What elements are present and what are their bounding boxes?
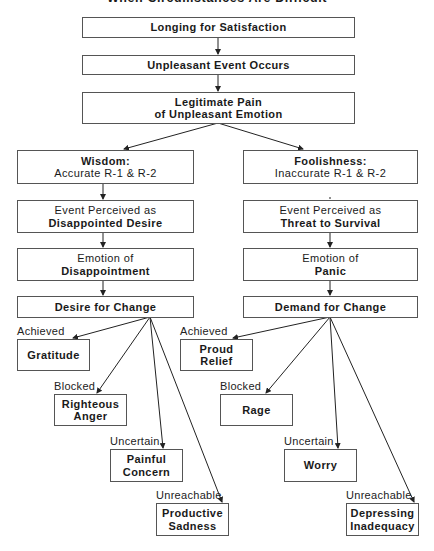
threat-to-survival-box: Event Perceived as Threat to Survival <box>243 200 418 233</box>
change-text: Demand for Change <box>275 301 386 314</box>
emotion-text: Emotion of <box>77 252 134 265</box>
outcome-line2: Relief <box>200 355 232 368</box>
outcome-line2: Sadness <box>168 520 216 533</box>
outcome-condition: Unreachable <box>346 489 412 501</box>
panic-box: Emotion of Panic <box>243 248 418 281</box>
outcome-line1: Rage <box>242 404 271 417</box>
unpleasant-event-box: Unpleasant Event Occurs <box>82 55 355 75</box>
outcome-line2: Anger <box>74 410 108 423</box>
change-text: Desire for Change <box>55 301 157 314</box>
worry-box: Worry <box>284 449 357 482</box>
outcome-condition: Uncertain <box>110 435 160 447</box>
proud-relief-box: Proud Relief <box>180 339 253 371</box>
productive-sadness-box: Productive Sadness <box>156 503 229 536</box>
longing-text: Longing for Satisfaction <box>150 21 286 34</box>
outcome-line1: Worry <box>304 459 338 472</box>
depressing-inadequacy-box: Depressing Inadequacy <box>346 503 419 536</box>
outcome-line1: Depressing <box>351 507 415 520</box>
foolishness-box: Foolishness: Inaccurate R-1 & R-2 <box>243 150 418 184</box>
outcome-condition: Achieved <box>180 325 228 337</box>
outcome-condition: Blocked <box>54 380 95 392</box>
perceived-text: Event Perceived as <box>55 204 157 217</box>
desire-for-change-box: Desire for Change <box>17 296 194 318</box>
emotion-text: Emotion of <box>302 252 359 265</box>
pain-line2: of Unpleasant Emotion <box>154 108 282 121</box>
emotion-bold: Disappointment <box>61 265 150 278</box>
wisdom-text: Accurate R-1 & R-2 <box>54 167 157 180</box>
outcome-condition: Achieved <box>17 325 65 337</box>
foolishness-text: Inaccurate R-1 & R-2 <box>275 167 386 180</box>
outcome-line1: Gratitude <box>27 349 80 362</box>
outcome-line2: Concern <box>123 466 170 479</box>
demand-for-change-box: Demand for Change <box>243 296 418 318</box>
longing-box: Longing for Satisfaction <box>82 17 355 38</box>
disappointment-box: Emotion of Disappointment <box>17 248 194 281</box>
perceived-bold: Threat to Survival <box>280 217 380 230</box>
outcome-condition: Uncertain <box>284 435 334 447</box>
gratitude-box: Gratitude <box>17 339 90 371</box>
outcome-line1: Proud <box>200 343 234 356</box>
outcome-condition: Unreachable <box>156 489 222 501</box>
disappointed-desire-box: Event Perceived as Disappointed Desire <box>17 200 194 233</box>
righteous-anger-box: Righteous Anger <box>54 394 127 426</box>
outcome-line2: Inadequacy <box>350 520 415 533</box>
perceived-bold: Disappointed Desire <box>49 217 163 230</box>
pain-line1: Legitimate Pain <box>175 96 262 109</box>
perceived-text: Event Perceived as <box>280 204 382 217</box>
outcome-condition: Blocked <box>220 380 261 392</box>
emotion-bold: Panic <box>315 265 346 278</box>
foolishness-heading: Foolishness: <box>294 155 367 168</box>
wisdom-heading: Wisdom: <box>81 155 130 168</box>
legitimate-pain-box: Legitimate Pain of Unpleasant Emotion <box>82 92 355 124</box>
outcome-line1: Productive <box>162 507 223 520</box>
outcome-line1: Painful <box>127 453 166 466</box>
outcome-line1: Righteous <box>62 398 119 411</box>
rage-box: Rage <box>220 394 293 426</box>
wisdom-box: Wisdom: Accurate R-1 & R-2 <box>17 150 194 184</box>
unpleasant-event-text: Unpleasant Event Occurs <box>147 59 289 72</box>
painful-concern-box: Painful Concern <box>110 449 183 482</box>
